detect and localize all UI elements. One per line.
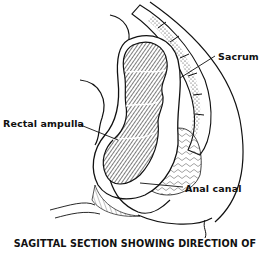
perineum-contour-line	[138, 215, 212, 224]
perianal-lines	[50, 203, 100, 218]
gluteal-cleft-line	[204, 220, 206, 238]
anal-canal-label: Anal canal	[185, 183, 242, 194]
rectal-ampulla-label: Rectal ampulla	[3, 118, 84, 129]
sacrum-label: Sacrum	[218, 51, 259, 62]
figure-caption: SAGITTAL SECTION SHOWING DIRECTION OF	[0, 238, 270, 249]
peritoneum-line	[80, 80, 104, 145]
